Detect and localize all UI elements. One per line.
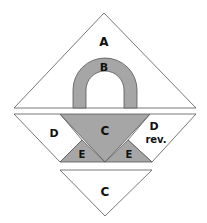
label-a: A (99, 35, 109, 49)
label-c-top: C (101, 124, 110, 138)
label-e-left: E (79, 149, 86, 160)
quilt-diagram: A B D D rev. C E E C (0, 0, 207, 223)
label-e-right: E (126, 149, 133, 160)
label-d-rev-suffix: rev. (145, 134, 166, 145)
label-c-bottom: C (101, 185, 110, 199)
label-d: D (49, 127, 58, 140)
label-b: B (100, 61, 108, 74)
label-d-rev: D (149, 120, 158, 133)
